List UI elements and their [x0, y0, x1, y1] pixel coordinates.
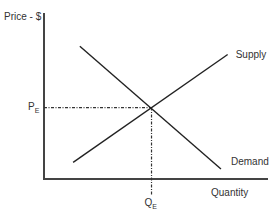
quantity-equilibrium-label: QE	[145, 197, 158, 210]
supply-demand-chart: Price - $ Quantity Supply Demand PE QE	[0, 0, 279, 216]
pe-sub: E	[35, 107, 40, 114]
y-axis-label: Price - $	[4, 11, 42, 22]
supply-label: Supply	[236, 49, 267, 60]
x-axis-label: Quantity	[211, 187, 248, 198]
price-equilibrium-label: PE	[28, 101, 40, 114]
qe-sub: E	[152, 203, 157, 210]
demand-label: Demand	[231, 156, 269, 167]
